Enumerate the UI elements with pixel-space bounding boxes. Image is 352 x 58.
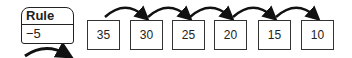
arc-arrow-icon — [148, 8, 187, 17]
sequence-box: 10 — [301, 20, 334, 50]
arc-arrow-icon — [190, 8, 229, 17]
sequence-box: 35 — [87, 20, 120, 50]
arc-arrow-icon — [233, 8, 272, 17]
sequence-box: 30 — [130, 20, 163, 50]
arc-arrow-icon — [276, 8, 315, 17]
rule-title: Rule — [22, 8, 73, 25]
sequence-box: 15 — [258, 20, 291, 50]
rule-box: Rule −5 — [21, 7, 74, 44]
arc-arrow-icon — [105, 8, 144, 17]
rule-value: −5 — [22, 25, 73, 43]
sequence-box: 20 — [214, 20, 247, 50]
rule-arrow-icon — [25, 48, 66, 56]
sequence-box: 25 — [172, 20, 205, 50]
